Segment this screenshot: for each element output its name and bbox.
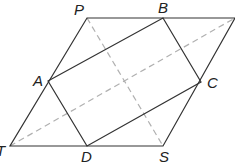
label-p: P	[74, 1, 84, 18]
parallelogram-diagram: P B A C T D S	[0, 0, 235, 164]
label-a: A	[32, 72, 43, 89]
label-b: B	[158, 0, 168, 16]
label-d: D	[81, 148, 92, 164]
diagonal-ps	[87, 18, 163, 146]
label-s: S	[159, 148, 169, 164]
label-t: T	[0, 142, 7, 159]
label-c: C	[207, 74, 218, 91]
